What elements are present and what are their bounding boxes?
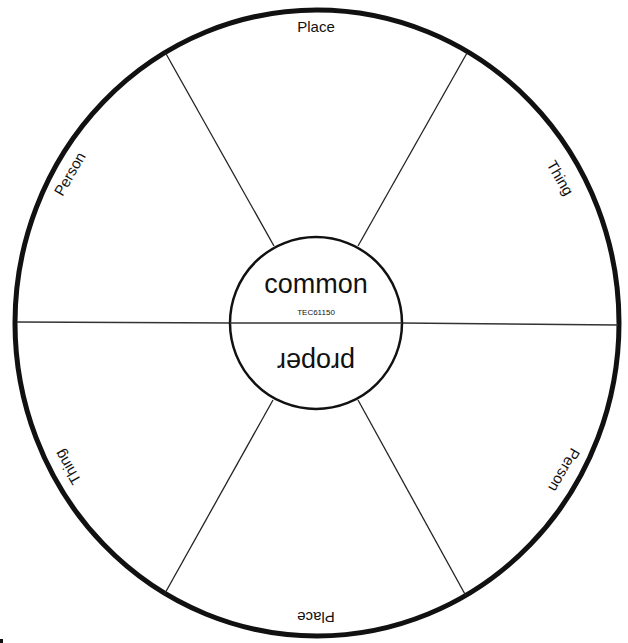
spoke-lower-left bbox=[164, 400, 273, 595]
scan-mark bbox=[0, 639, 3, 643]
horizontal-divider-left bbox=[17, 322, 232, 323]
spoke-upper-left bbox=[165, 52, 274, 246]
outer-label-lower-right: Person bbox=[545, 445, 583, 495]
center-top-label: common bbox=[264, 269, 368, 299]
product-code: TEC61150 bbox=[297, 308, 335, 317]
horizontal-divider-right bbox=[401, 323, 618, 325]
outer-label-top: Place bbox=[297, 18, 335, 35]
outer-label-upper-left: Person bbox=[50, 149, 88, 199]
noun-wheel: common TEC61150 proper Place Thing Perso… bbox=[0, 0, 628, 643]
outer-label-upper-right: Thing bbox=[544, 157, 577, 198]
center-bottom-label: proper bbox=[277, 347, 355, 377]
outer-label-bottom: Place bbox=[297, 609, 335, 626]
spoke-upper-right bbox=[358, 53, 467, 246]
spoke-lower-right bbox=[358, 400, 466, 596]
